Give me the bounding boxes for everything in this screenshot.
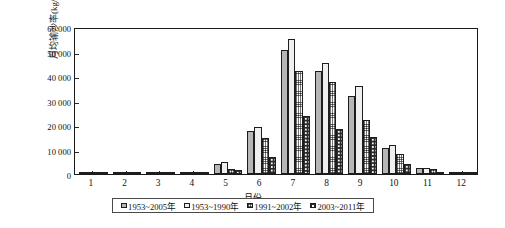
bar: [101, 172, 108, 174]
bar: [437, 172, 444, 174]
x-tick-label: 1: [79, 178, 103, 188]
y-tick-label: 0: [27, 172, 71, 180]
legend-label: 1991~2002年: [254, 200, 302, 212]
bar: [269, 157, 276, 174]
bar: [168, 172, 175, 174]
x-tick-label: 9: [348, 178, 372, 188]
y-tick-mark: [75, 127, 79, 128]
bar: [471, 172, 478, 174]
legend-item[interactable]: 1991~2002年: [247, 200, 302, 212]
x-tick-label: 2: [113, 178, 137, 188]
bar: [254, 127, 261, 174]
bar: [281, 50, 288, 174]
bar: [416, 168, 423, 174]
bar: [464, 172, 471, 174]
bar: [113, 172, 120, 174]
bar: [247, 131, 254, 174]
x-tick-label: 10: [382, 178, 406, 188]
y-tick-label: 60 000: [27, 25, 71, 33]
legend-swatch-icon: [184, 203, 190, 209]
bar: [382, 148, 389, 174]
bar: [389, 145, 396, 174]
bar: [153, 172, 160, 174]
bar: [348, 96, 355, 174]
legend-label: 1953~1990年: [191, 200, 239, 212]
y-tick-mark: [75, 152, 79, 153]
chart-figure: 月均输沙率(kg/s) 010 00020 00030 00040 00050 …: [0, 0, 505, 228]
legend-swatch-icon: [121, 203, 127, 209]
bar: [396, 154, 403, 174]
bar: [262, 138, 269, 174]
x-tick-label: 6: [247, 178, 271, 188]
y-tick-mark: [75, 78, 79, 79]
bar: [146, 172, 153, 174]
legend-item[interactable]: 1953~1990年: [184, 200, 239, 212]
bar: [315, 71, 322, 174]
legend-label: 1953~2005年: [128, 200, 176, 212]
x-tick-label: 7: [281, 178, 305, 188]
bar: [79, 172, 86, 174]
bar: [180, 172, 187, 174]
x-tick-label: 5: [214, 178, 238, 188]
bar: [228, 169, 235, 174]
bar: [423, 168, 430, 174]
bar: [194, 172, 201, 174]
bar: [187, 172, 194, 174]
x-tick-label: 8: [315, 178, 339, 188]
legend-item[interactable]: 2003~2011年: [310, 200, 365, 212]
bar: [288, 39, 295, 174]
x-tick-label: 3: [146, 178, 170, 188]
bar: [86, 172, 93, 174]
bar: [456, 172, 463, 174]
bar: [120, 172, 127, 174]
bar: [295, 71, 302, 174]
bar: [235, 170, 242, 174]
legend-label: 2003~2011年: [317, 200, 365, 212]
bar: [214, 164, 221, 174]
y-tick-label: 30 000: [27, 99, 71, 107]
x-tick-label: 12: [449, 178, 473, 188]
legend-swatch-icon: [310, 203, 316, 209]
bar: [303, 116, 310, 174]
bar: [449, 172, 456, 174]
x-tick-label: 11: [416, 178, 440, 188]
bar: [161, 172, 168, 174]
legend-swatch-icon: [247, 203, 253, 209]
y-tick-mark: [75, 103, 79, 104]
bar: [336, 129, 343, 174]
y-tick-label: 10 000: [27, 148, 71, 156]
legend-item[interactable]: 1953~2005年: [121, 200, 176, 212]
bar: [329, 82, 336, 174]
plot-area: 月均输沙率(kg/s) 010 00020 00030 00040 00050 …: [74, 28, 478, 175]
y-tick-label: 50 000: [27, 50, 71, 58]
y-tick-label: 20 000: [27, 123, 71, 131]
bar: [363, 120, 370, 174]
bar: [221, 162, 228, 174]
bar: [404, 164, 411, 174]
y-tick-mark: [75, 54, 79, 55]
x-tick-label: 4: [180, 178, 204, 188]
bar: [370, 137, 377, 174]
bar: [202, 172, 209, 174]
bar: [134, 172, 141, 174]
y-tick-label: 40 000: [27, 74, 71, 82]
bar: [93, 172, 100, 174]
bar: [322, 63, 329, 174]
bar: [430, 169, 437, 174]
bar: [127, 172, 134, 174]
chart-legend: 1953~2005年1953~1990年1991~2002年2003~2011年: [112, 198, 374, 213]
bar: [355, 86, 362, 174]
